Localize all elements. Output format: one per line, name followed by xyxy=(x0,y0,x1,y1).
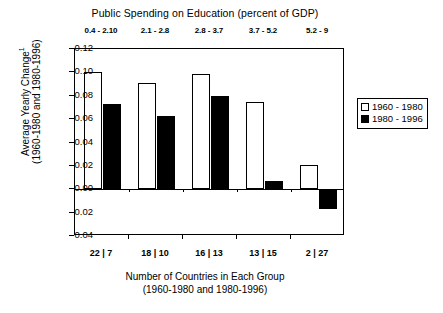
zero-axis-tick-mark xyxy=(183,189,184,192)
y-axis-tick-mark xyxy=(69,165,74,166)
legend-swatch-light-icon xyxy=(361,103,369,111)
bar xyxy=(211,96,229,190)
zero-axis-tick-mark xyxy=(129,189,130,192)
x-axis-tick-mark xyxy=(236,235,237,239)
y-axis-tick-mark xyxy=(69,95,74,96)
bar-group xyxy=(129,49,183,234)
y-axis-tick-mark xyxy=(69,48,74,49)
top-axis-tick-label: 2.8 - 3.7 xyxy=(182,26,236,40)
bar xyxy=(300,165,318,190)
top-axis-tick-label: 2.1 - 2.8 xyxy=(128,26,182,40)
legend-item-label: 1980 - 1996 xyxy=(372,113,423,125)
x-axis-title-main: Number of Countries in Each Group xyxy=(126,271,285,282)
top-axis-tick-label: 5.2 - 9 xyxy=(290,26,344,40)
chart-title: Public Spending on Education (percent of… xyxy=(60,7,350,19)
x-axis-tick-label: 22 | 7 xyxy=(74,248,128,262)
bar xyxy=(157,116,175,190)
x-axis-tick-mark xyxy=(290,235,291,239)
zero-axis-tick-mark xyxy=(237,189,238,192)
legend-item: 1980 - 1996 xyxy=(361,113,423,125)
x-axis-tick-label: 18 | 10 xyxy=(128,248,182,262)
y-axis-tick-mark xyxy=(69,142,74,143)
bar-group xyxy=(291,49,345,234)
y-axis-title: Average Yearly Change1 (1960-1980 and 19… xyxy=(16,17,43,187)
bar xyxy=(103,104,121,189)
y-axis-title-footnote-marker: 1 xyxy=(18,47,25,51)
y-axis-tick-mark xyxy=(69,212,74,213)
legend-item: 1960 - 1980 xyxy=(361,101,423,113)
x-axis-title-sub: (1960-1980 and 1980-1996) xyxy=(143,284,268,295)
y-axis-tick-mark xyxy=(69,118,74,119)
bar xyxy=(246,102,264,190)
bar-group xyxy=(237,49,291,234)
plot-area xyxy=(74,48,344,235)
chart-figure: Public Spending on Education (percent of… xyxy=(0,0,443,313)
x-axis-tick-label: 13 | 15 xyxy=(236,248,290,262)
x-axis-tick-label: 2 | 27 xyxy=(290,248,344,262)
x-axis-tick-mark xyxy=(182,235,183,239)
x-axis-tick-mark xyxy=(128,235,129,239)
y-axis-title-main: Average Yearly Change xyxy=(20,51,31,156)
top-axis-tick-label: 3.7 - 5.2 xyxy=(236,26,290,40)
bar xyxy=(319,189,337,209)
legend-swatch-dark-icon xyxy=(361,115,369,123)
y-axis-tick-mark xyxy=(69,188,74,189)
y-axis-tick-mark xyxy=(69,235,74,236)
top-axis-tick-labels: 0.4 - 2.102.1 - 2.82.8 - 3.73.7 - 5.25.2… xyxy=(74,26,344,40)
x-axis-tick-labels: 22 | 718 | 1016 | 1313 | 152 | 27 xyxy=(74,248,344,262)
bar xyxy=(138,83,156,189)
chart-legend: 1960 - 19801980 - 1996 xyxy=(357,98,428,129)
y-axis-title-sub: (1960-1980 and 1980-1996) xyxy=(32,39,43,164)
bar xyxy=(265,181,283,189)
top-axis-tick-label: 0.4 - 2.10 xyxy=(74,26,128,40)
bar-group xyxy=(183,49,237,234)
y-axis-tick-mark xyxy=(69,71,74,72)
zero-axis-tick-mark xyxy=(291,189,292,192)
bar xyxy=(192,74,210,190)
x-axis-tick-label: 16 | 13 xyxy=(182,248,236,262)
legend-item-label: 1960 - 1980 xyxy=(372,101,423,113)
x-axis-title: Number of Countries in Each Group (1960-… xyxy=(60,270,350,296)
